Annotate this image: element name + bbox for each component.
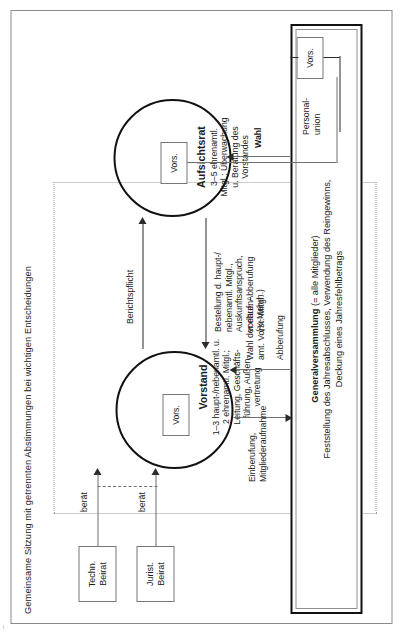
generalversammlung-qualifier: (= alle Mitglieder) xyxy=(309,235,319,308)
berat-label-jurist: berät xyxy=(136,492,147,512)
wahl-vorst-arrowhead xyxy=(229,366,236,374)
jurist-beirat-stub-line xyxy=(155,510,156,546)
abberufung-label: Abberufung xyxy=(274,315,285,360)
bestellung-arrowhead xyxy=(201,342,209,349)
generalversammlung-description: Feststellung des Jahresabschlusses, Verw… xyxy=(320,26,344,612)
wahl-shaft xyxy=(232,156,290,157)
aufsichtsrat-chair-box[interactable]: Vors. xyxy=(160,142,187,184)
vorstand-chair-box[interactable]: Vors. xyxy=(162,394,189,436)
berat-arrowhead-jurist xyxy=(151,468,159,475)
berat-dashed-line-techn xyxy=(97,486,157,487)
personalunion-horizontal xyxy=(336,77,337,163)
page-corner-mark: ~ xyxy=(0,625,7,629)
berichtspflicht-shaft xyxy=(142,223,143,349)
bestellung-shaft xyxy=(205,218,206,342)
generalversammlung-chair-box[interactable]: Vors. xyxy=(296,37,323,79)
techn-beirat-stub-line xyxy=(97,510,98,546)
berat-label-techn: berät xyxy=(78,492,89,512)
wahl-label: Wahl xyxy=(252,128,263,148)
techn-beirat-connector xyxy=(97,486,98,510)
berat-arrow-shaft-techn xyxy=(97,474,98,486)
group-title: Gemeinsame Sitzung mit getrennten Abstim… xyxy=(22,266,32,614)
personalunion-label: Personal- union xyxy=(300,98,321,135)
personalunion-vertical xyxy=(187,162,336,163)
gv-chair-riser-lower xyxy=(323,57,339,58)
wahl-arrowhead xyxy=(226,153,233,161)
einberufung-label: Einberufung, Mitgliederaufnahme xyxy=(246,406,267,482)
technical-advisory-board-box[interactable]: Techn. Beirat xyxy=(78,546,116,602)
aufsichtsrat-text-block: Aufsichtsrat 3–5 ehrenamtl. Mitgl.; Über… xyxy=(194,102,249,212)
aufsichtsrat-name: Aufsichtsrat xyxy=(194,102,207,212)
wahl-vorst-label: Wahl der ehren- amt. Vorst.-Mitgl. xyxy=(244,295,265,360)
berat-arrow-shaft-jurist xyxy=(155,474,156,510)
wahl-vorst-shaft xyxy=(236,369,290,370)
diagram-canvas: Gemeinsame Sitzung mit getrennten Abstim… xyxy=(0,0,403,632)
gv-chair-riser xyxy=(290,57,298,58)
generalversammlung-name: Generalversammlung xyxy=(309,309,319,403)
berichtspflicht-label: Berichtspflicht xyxy=(124,270,135,324)
diagram-rotation-stage: Gemeinsame Sitzung mit getrennten Abstim… xyxy=(0,0,403,632)
gv-chair-bottom-link xyxy=(339,56,340,132)
einberufung-arrowhead xyxy=(285,414,292,422)
legal-advisory-board-box[interactable]: Jurist. Beirat xyxy=(136,546,174,602)
berichtspflicht-arrowhead xyxy=(138,217,146,224)
